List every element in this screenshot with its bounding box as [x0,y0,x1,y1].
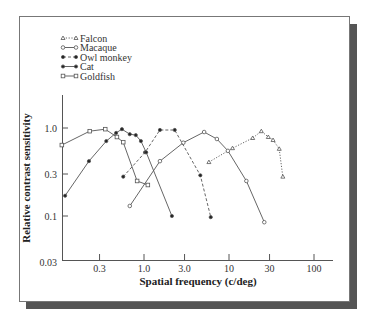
data-point [139,139,142,142]
data-point [262,220,266,224]
data-point [173,128,176,131]
data-point [209,216,212,219]
x-tick-label: 10 [224,263,234,274]
data-point [105,139,108,142]
y-tick-label: 1.0 [45,123,58,134]
x-tick-label: 1.0 [138,263,151,274]
data-point [158,128,161,131]
data-point [146,183,150,187]
data-point [199,174,202,177]
data-point [60,143,64,147]
x-tick-label: 30 [265,263,275,274]
x-tick-label: 100 [307,263,322,274]
data-point [64,194,67,197]
data-point [88,129,92,133]
data-point [135,179,139,183]
legend-marker-start [61,46,65,50]
legend-marker-start [61,55,64,58]
x-axis-title: Spatial frequency (c/deg) [139,275,256,288]
data-point [120,128,123,131]
legend-marker-end [74,46,78,50]
legend-marker-start [61,65,64,68]
data-point [87,160,90,163]
y-tick-label: 0.3 [45,169,58,180]
data-point [115,131,118,134]
data-point [122,175,125,178]
data-point [103,127,107,131]
frame-shadow-right [349,24,357,309]
y-tick-label: 0.1 [45,211,58,222]
data-point [115,135,119,139]
data-point [158,159,162,163]
data-point [121,140,125,144]
data-point [170,214,173,217]
data-point [202,130,206,134]
data-point [134,134,137,137]
data-point [182,141,186,145]
legend-marker-start [61,74,65,78]
data-point [215,137,219,141]
x-tick-label: 3.0 [178,263,191,274]
y-tick-label: 0.03 [40,257,58,268]
legend-marker-end [74,65,77,68]
legend-label: Goldfish [80,71,115,82]
legend-marker-end [74,55,77,58]
x-tick-label: 0.3 [93,263,106,274]
y-axis-title: Relative contrast sensitivity [20,113,32,243]
legend-marker-end [74,74,78,78]
data-point [245,179,249,183]
data-point [128,133,131,136]
frame-shadow-bottom [26,301,357,309]
data-point [226,149,230,153]
data-point [128,204,132,208]
chart: FalconMacaqueOwl monkeyCatGoldfish 0.030… [0,0,371,328]
data-point [145,151,148,154]
